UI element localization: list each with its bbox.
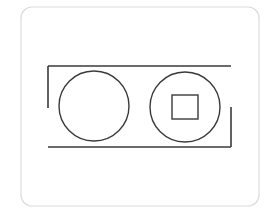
outer-frame	[21, 7, 259, 206]
diagram-canvas	[0, 0, 278, 216]
